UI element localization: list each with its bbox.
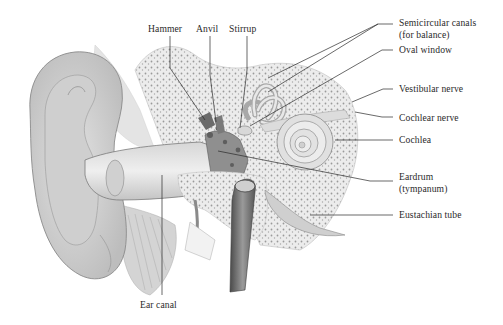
label-hammer: Hammer (148, 23, 182, 34)
label-ear-canal: Ear canal (140, 299, 177, 310)
label-eustachian-tube: Eustachian tube (399, 209, 462, 220)
label-cochlear-nerve: Cochlear nerve (399, 112, 459, 123)
label-eardrum-note: (tympanum) (399, 183, 447, 194)
ear-anatomy-diagram: Hammer Anvil Stirrup Semicircular canals… (0, 0, 503, 325)
label-semicircular-canals: Semicircular canals (399, 17, 476, 28)
cochlea-shape (277, 114, 333, 170)
label-eardrum: Eardrum (399, 171, 433, 182)
label-semicircular-canals-note: (for balance) (399, 29, 450, 40)
label-vestibular-nerve: Vestibular nerve (399, 83, 463, 94)
label-stirrup: Stirrup (229, 23, 256, 34)
muscle-fibers (120, 205, 176, 295)
label-oval-window: Oval window (399, 44, 452, 55)
label-cochlea: Cochlea (399, 134, 431, 145)
label-anvil: Anvil (196, 23, 218, 34)
